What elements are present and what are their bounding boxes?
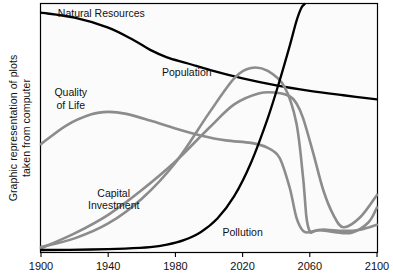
label-pollution: Pollution xyxy=(222,226,262,239)
x-tick-label-1940: 1940 xyxy=(96,260,120,272)
label-line-1: Quality xyxy=(54,86,87,99)
chart-figure: Graphic representation of plots taken fr… xyxy=(0,0,393,278)
x-tick-label-1900: 1900 xyxy=(29,260,53,272)
label-line-1: Capital xyxy=(88,187,139,200)
x-tick-label-2020: 2020 xyxy=(230,260,254,272)
label-natural-resources: Natural Resources xyxy=(58,7,145,20)
label-quality-of-life: Qualityof Life xyxy=(54,86,87,111)
label-line-2: Investment xyxy=(88,199,139,212)
label-population: Population xyxy=(162,66,212,79)
label-capital-investment: CapitalInvestment xyxy=(88,187,139,212)
x-tick-label-1980: 1980 xyxy=(163,260,187,272)
plot-canvas xyxy=(0,0,393,278)
label-line-2: of Life xyxy=(54,99,87,112)
x-tick-label-2060: 2060 xyxy=(298,260,322,272)
x-tick-label-2100: 2100 xyxy=(365,260,389,272)
